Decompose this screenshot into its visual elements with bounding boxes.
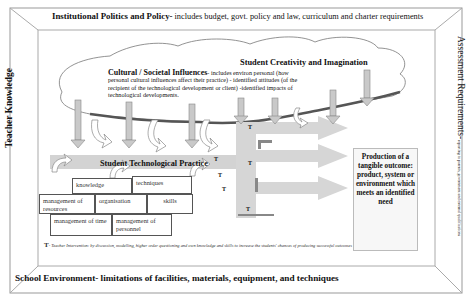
school-environment-label: School Environment- limitations of facil…: [15, 273, 339, 283]
teacher-intervention-marker: T: [246, 206, 250, 212]
institutional-politics-label: Institutional Politics and Policy- inclu…: [52, 11, 423, 21]
technological-practice-title: Student Technological Practice: [100, 159, 208, 168]
teacher-intervention-marker: T: [218, 172, 222, 178]
creativity-label: Student Creativity and Imagination: [240, 58, 368, 67]
teacher-intervention-marker: T: [248, 124, 252, 130]
box-management-of-time: management of time: [50, 214, 112, 236]
teacher-intervention-marker: T: [214, 156, 218, 162]
teacher-intervention-marker: T: [248, 160, 252, 166]
tangible-outcome-box: Production of a tangible outcome: produc…: [353, 148, 418, 251]
box-management-of-resources: management of resources: [39, 194, 95, 214]
teacher-intervention-footnote: T- Teacher Intervention: by discussion, …: [44, 243, 354, 249]
assessment-requirements-label: Assessment Requirements- reporting to pa…: [456, 36, 466, 236]
box-knowledge: knowledge: [72, 178, 132, 194]
cultural-influences-text: Cultural / Societal Influences- includes…: [108, 69, 298, 98]
teacher-knowledge-label: Teacher Knowledge: [4, 28, 14, 188]
box-organisation: organisation: [95, 194, 147, 214]
box-techniques: techniques: [132, 176, 192, 194]
teacher-intervention-marker: T: [222, 186, 226, 192]
box-skills: skills: [147, 194, 193, 214]
box-management-of-personnel: management of personnel: [112, 214, 172, 236]
